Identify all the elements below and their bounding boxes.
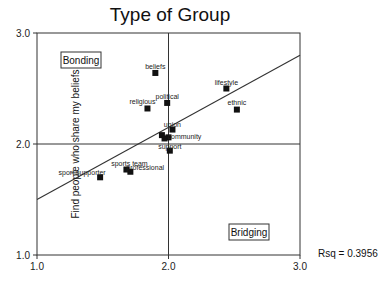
- x-tick-label: 1.0: [30, 261, 44, 272]
- point-label: union: [164, 121, 181, 128]
- data-point: political: [156, 93, 180, 106]
- data-point: community: [166, 133, 202, 141]
- point-marker: [144, 105, 150, 111]
- data-point: ethnic: [228, 99, 247, 113]
- data-point: support: [158, 143, 181, 154]
- data-point: sport supporter: [59, 169, 107, 180]
- data-points: beliefspoliticalreligiouslifestyleethnic…: [59, 63, 247, 180]
- point-label: ethnic: [228, 99, 247, 106]
- point-label: beliefs: [145, 63, 166, 70]
- quadrant-label-text: Bonding: [63, 55, 100, 66]
- quadrant-label-text: Bridging: [231, 227, 268, 238]
- point-marker: [234, 107, 240, 113]
- x-tick-label: 2.0: [162, 261, 176, 272]
- data-point: union: [164, 121, 181, 133]
- x-tick-label: 3.0: [293, 261, 307, 272]
- point-label: political: [156, 93, 180, 101]
- data-point: beliefs: [145, 63, 166, 76]
- scatter-plot: 1.02.03.01.02.03.0 BondingBridging belie…: [0, 0, 379, 287]
- data-point: religious: [129, 98, 156, 111]
- rsq-annotation: Rsq = 0.3956: [318, 248, 378, 259]
- point-label: sport supporter: [59, 169, 107, 177]
- y-tick-label: 2.0: [16, 139, 30, 150]
- point-marker: [223, 86, 229, 92]
- y-tick-label: 3.0: [16, 28, 30, 39]
- point-label: professional: [126, 164, 164, 172]
- point-marker: [164, 100, 170, 106]
- point-label: religious: [129, 98, 156, 106]
- quadrant-label-bonding: Bonding: [61, 52, 101, 68]
- point-marker: [152, 70, 158, 76]
- y-axis-label: Find people who share my beliefs: [70, 70, 81, 219]
- point-label: support: [158, 143, 181, 151]
- point-label: community: [168, 133, 202, 141]
- data-point: [162, 135, 168, 141]
- quadrant-label-bridging: Bridging: [229, 224, 269, 240]
- point-marker: [162, 135, 168, 141]
- y-tick-label: 1.0: [16, 250, 30, 261]
- data-point: professional: [126, 164, 164, 175]
- data-point: lifestyle: [215, 79, 238, 92]
- point-label: lifestyle: [215, 79, 238, 87]
